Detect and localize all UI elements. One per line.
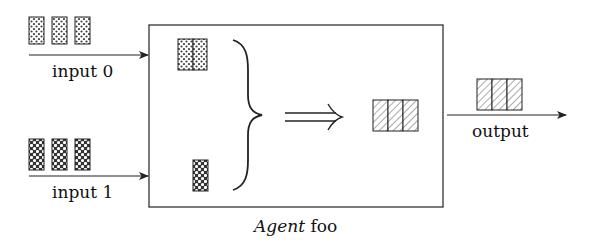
output-cells: [477, 79, 522, 110]
output-group: output: [447, 79, 566, 141]
brace-icon: [233, 40, 262, 190]
agent-diagram: input 0 input 1: [0, 0, 595, 251]
agent-caption-italic: Agent: [252, 216, 305, 236]
input-0-label: input 0: [52, 61, 113, 81]
inner-buffer-0: [178, 39, 207, 70]
input-0-cells: [29, 17, 90, 44]
agent-caption-name: foo: [305, 216, 337, 236]
inner-buffer-1: [193, 160, 208, 191]
input-1-label: input 1: [52, 182, 113, 202]
input-1-group: input 1: [29, 139, 148, 202]
output-label: output: [472, 121, 529, 141]
inner-result: [373, 100, 418, 131]
agent-caption: Agent foo: [252, 216, 337, 236]
double-right-arrow-icon: [285, 104, 342, 130]
input-0-group: input 0: [29, 17, 148, 81]
input-1-cells: [29, 139, 90, 170]
